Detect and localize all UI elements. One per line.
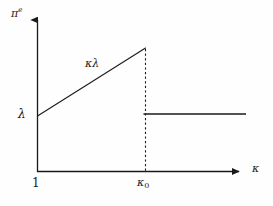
- y-axis-label: πe: [11, 8, 22, 19]
- y-tick-label-lambda: λ: [18, 108, 26, 120]
- expected-inflation-figure: πe κ λ 1 κ0 κλ: [0, 0, 273, 206]
- x-tick-label-one: 1: [32, 177, 40, 189]
- curve-label-kappa-lambda: κλ: [85, 58, 99, 69]
- y-axis-label-superscript: e: [18, 6, 22, 14]
- x-tick-label-kappa-zero: κ0: [137, 177, 149, 188]
- x-tick-kappa-subscript: 0: [144, 181, 149, 190]
- x-axis-label: κ: [252, 163, 259, 174]
